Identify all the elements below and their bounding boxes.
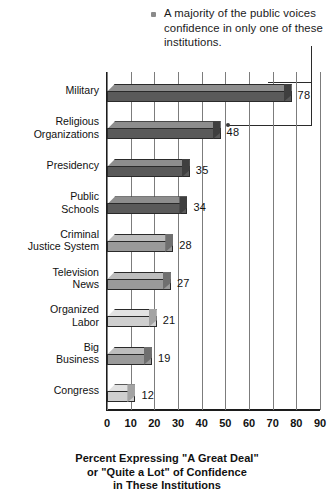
x-tick-label: 50 bbox=[215, 417, 235, 429]
bar bbox=[107, 196, 187, 214]
category-label: Presidency bbox=[0, 159, 99, 171]
gridline bbox=[249, 72, 250, 410]
category-label-line: Congress bbox=[0, 384, 99, 396]
annotation-callout: A majority of the public voices confiden… bbox=[151, 6, 327, 50]
bar-value-label: 48 bbox=[227, 126, 240, 138]
x-tick-label: 20 bbox=[144, 417, 164, 429]
category-label-line: Criminal bbox=[0, 228, 99, 240]
x-axis-title-line-3: in These Institutions bbox=[0, 479, 334, 493]
bar-front-face bbox=[107, 166, 190, 177]
bar-value-label: 21 bbox=[163, 314, 176, 326]
category-label-line: Justice System bbox=[0, 240, 99, 252]
x-tick-label: 70 bbox=[263, 417, 283, 429]
bar-value-label: 27 bbox=[177, 277, 190, 289]
category-label-line: Presidency bbox=[0, 159, 99, 171]
x-tick-label: 40 bbox=[192, 417, 212, 429]
chart-canvas: A majority of the public voices confiden… bbox=[0, 0, 334, 495]
bar-value-label: 35 bbox=[196, 164, 209, 176]
bar-front-face bbox=[107, 279, 171, 290]
x-tick-label: 90 bbox=[310, 417, 330, 429]
gridline bbox=[296, 72, 297, 410]
bar bbox=[107, 347, 152, 365]
category-label: PublicSchools bbox=[0, 190, 99, 215]
gridline bbox=[320, 72, 321, 410]
bar-front-face bbox=[107, 241, 173, 252]
plot-area: 784835342827211912 bbox=[107, 72, 320, 410]
category-label-line: Schools bbox=[0, 203, 99, 215]
category-label-line: News bbox=[0, 278, 99, 290]
category-label: TelevisionNews bbox=[0, 266, 99, 291]
category-label: BigBusiness bbox=[0, 341, 99, 366]
category-label-line: Public bbox=[0, 190, 99, 202]
category-label-line: Religious bbox=[0, 115, 99, 127]
category-label-line: Television bbox=[0, 266, 99, 278]
gridline bbox=[225, 72, 226, 410]
bar bbox=[107, 384, 135, 402]
x-tick-label: 30 bbox=[168, 417, 188, 429]
category-label: ReligiousOrganizations bbox=[0, 115, 99, 140]
category-label: Congress bbox=[0, 384, 99, 396]
bar-front-face bbox=[107, 91, 292, 102]
category-label-line: Labor bbox=[0, 316, 99, 328]
bar-front-face bbox=[107, 203, 187, 214]
x-tick-label: 10 bbox=[121, 417, 141, 429]
bar bbox=[107, 272, 171, 290]
square-bullet-icon bbox=[151, 12, 156, 17]
category-label-line: Big bbox=[0, 341, 99, 353]
bar-front-face bbox=[107, 128, 221, 139]
bar-value-label: 28 bbox=[179, 239, 192, 251]
bar bbox=[107, 234, 173, 252]
bar bbox=[107, 159, 190, 177]
category-label: OrganizedLabor bbox=[0, 303, 99, 328]
bar bbox=[107, 309, 157, 327]
x-axis-line bbox=[106, 409, 320, 411]
bar-value-label: 12 bbox=[141, 389, 154, 401]
bar bbox=[107, 84, 292, 102]
category-label-line: Military bbox=[0, 84, 99, 96]
x-axis-title: Percent Expressing "A Great Deal" or "Qu… bbox=[0, 452, 334, 493]
category-label-line: Organized bbox=[0, 303, 99, 315]
x-axis-title-line-2: or "Quite a Lot" of Confidence bbox=[0, 466, 334, 480]
bar-value-label: 78 bbox=[298, 89, 311, 101]
gridline bbox=[273, 72, 274, 410]
category-label: CriminalJustice System bbox=[0, 228, 99, 253]
bar-value-label: 34 bbox=[193, 201, 206, 213]
annotation-text: A majority of the public voices confiden… bbox=[164, 6, 327, 50]
bar bbox=[107, 121, 221, 139]
x-tick-label: 60 bbox=[239, 417, 259, 429]
bar-value-label: 19 bbox=[158, 352, 171, 364]
x-tick-label: 0 bbox=[97, 417, 117, 429]
x-axis-title-line-1: Percent Expressing "A Great Deal" bbox=[0, 452, 334, 466]
category-label: Military bbox=[0, 84, 99, 96]
category-label-line: Business bbox=[0, 353, 99, 365]
x-tick-label: 80 bbox=[286, 417, 306, 429]
category-label-line: Organizations bbox=[0, 128, 99, 140]
